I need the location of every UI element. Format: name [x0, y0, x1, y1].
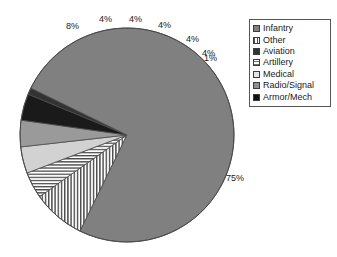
legend-swatch-aviation [253, 48, 260, 55]
pct-label-other: 8% [66, 21, 79, 31]
pct-label-armor-mech: 4% [186, 34, 199, 44]
pct-label-artillery: 4% [99, 14, 112, 24]
pie-chart: 8% 4% 4% 4% 4% 4% 1% 75% Infantry Other … [0, 0, 337, 257]
legend-label-armor-mech: Armor/Mech [263, 92, 312, 103]
legend-swatch-medical [253, 71, 260, 78]
legend-item-other[interactable]: Other [253, 34, 327, 45]
legend-label-infantry: Infantry [263, 23, 293, 34]
legend-swatch-artillery [253, 59, 260, 66]
pct-label-radio-signal: 4% [158, 20, 171, 30]
legend-label-medical: Medical [263, 69, 294, 80]
legend-label-aviation: Aviation [263, 46, 295, 57]
legend-item-aviation[interactable]: Aviation [253, 46, 327, 57]
legend-swatch-radio-signal [253, 82, 260, 89]
pct-label-medical: 4% [129, 14, 142, 24]
pie-slices [20, 28, 234, 242]
legend-swatch-other [253, 37, 260, 44]
legend-item-armor-mech[interactable]: Armor/Mech [253, 91, 327, 102]
legend-label-other: Other [263, 35, 286, 46]
pct-label-aviation: 1% [204, 53, 217, 63]
legend-item-medical[interactable]: Medical [253, 69, 327, 80]
legend: Infantry Other Aviation Artillery Medica… [249, 19, 331, 107]
legend-item-infantry[interactable]: Infantry [253, 23, 327, 34]
legend-swatch-infantry [253, 25, 260, 32]
legend-label-artillery: Artillery [263, 57, 293, 68]
legend-label-radio-signal: Radio/Signal [263, 80, 314, 91]
legend-swatch-armor-mech [253, 94, 260, 101]
legend-item-artillery[interactable]: Artillery [253, 57, 327, 68]
legend-item-radio-signal[interactable]: Radio/Signal [253, 80, 327, 91]
pct-label-infantry: 75% [226, 173, 244, 183]
